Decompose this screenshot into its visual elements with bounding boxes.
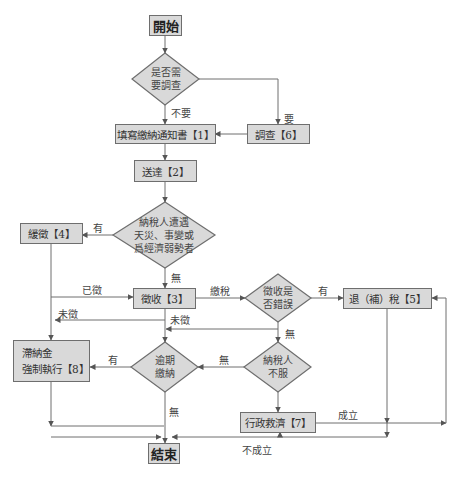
decision-text-line: 否錯誤	[263, 298, 293, 311]
edge-label-unpaid-left: 未徵	[58, 306, 78, 321]
edge-label-no-disagree: 無	[219, 352, 229, 367]
edge-label-not-established: 不成立	[242, 442, 272, 457]
end-node: 結束	[148, 443, 180, 464]
start-node: 開始	[149, 15, 182, 36]
process-appeal-label: 行政救濟【7】	[245, 415, 312, 430]
decision-text-line: 納稅人遭遇	[139, 216, 189, 229]
edge-label-has-disaster: 有	[93, 220, 103, 235]
edge-label-unpaid-center: 未徵	[170, 312, 190, 327]
decision-text-line: 爲經濟弱勢者	[134, 242, 194, 255]
edge-label-overdue-yes: 有	[108, 352, 118, 367]
process-refund: 退（補）稅【5】	[343, 288, 432, 309]
edge-label-no-disaster: 無	[171, 270, 181, 285]
decision-text-line: 是否需	[151, 66, 181, 79]
decision-text-line: 繳納	[155, 367, 175, 380]
process-investigate-label: 調查【6】	[255, 127, 302, 142]
decision-text-line: 逾期	[155, 354, 175, 367]
decision-need-investigation: 是否需 要調查	[132, 53, 199, 105]
decision-taxpayer-disagrees: 納稅人 不服	[244, 342, 311, 392]
decision-overdue-payment: 逾期 繳納	[131, 342, 198, 392]
process-penalty: 滯納金 強制執行【8】	[13, 340, 90, 382]
start-label: 開始	[153, 16, 179, 35]
edge-label-pay-tax: 繳稅	[210, 283, 230, 298]
process-defer: 緩徵【4】	[20, 223, 83, 244]
edge-label-no-error: 無	[285, 326, 295, 341]
process-collect-label: 徵收【3】	[141, 291, 188, 306]
process-fill-notice-label: 填寫繳納通知書【1】	[117, 127, 214, 142]
end-label: 結束	[151, 444, 177, 463]
process-refund-label: 退（補）稅【5】	[349, 291, 426, 306]
process-defer-label: 緩徵【4】	[28, 226, 75, 241]
decision-text-line: 天災、事變或	[134, 229, 194, 242]
decision-text-line: 要調查	[151, 79, 181, 92]
decision-text-line: 不服	[268, 367, 288, 380]
decision-text-line: 納稅人	[263, 354, 293, 367]
edge-label-established: 成立	[338, 407, 358, 422]
process-penalty-line1: 滯納金	[22, 345, 52, 361]
flowchart-canvas: 開始 結束 填寫繳納通知書【1】 調查【6】 送達【2】 緩徵【4】 徵收【3】…	[0, 0, 463, 477]
process-fill-notice: 填寫繳納通知書【1】	[115, 124, 216, 144]
decision-collection-error: 徵收是 否錯誤	[245, 274, 311, 322]
process-investigate: 調查【6】	[247, 124, 310, 144]
process-deliver: 送達【2】	[134, 160, 197, 182]
edge-label-no-need: 不要	[171, 105, 191, 120]
process-penalty-line2: 強制執行【8】	[22, 361, 89, 377]
edge-label-overdue-no: 無	[169, 404, 179, 419]
edge-label-need: 要	[284, 111, 294, 126]
process-appeal: 行政救濟【7】	[240, 412, 316, 433]
process-collect: 徵收【3】	[133, 288, 196, 309]
edge-label-paid: 已徵	[82, 282, 102, 297]
decision-text-line: 徵收是	[263, 285, 293, 298]
decision-disaster-or-weak: 納稅人遭遇 天災、事變或 爲經濟弱勢者	[113, 202, 215, 268]
process-deliver-label: 送達【2】	[142, 164, 189, 179]
edge-label-has-error: 有	[318, 283, 328, 298]
